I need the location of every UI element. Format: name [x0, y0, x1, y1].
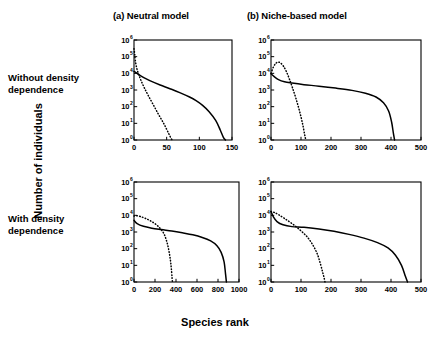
- chart-panel-a-neutral-without-dd: 100101102103104105106050100150: [108, 32, 236, 162]
- svg-text:10: 10: [121, 136, 129, 145]
- svg-text:0: 0: [269, 285, 273, 294]
- svg-text:10: 10: [258, 194, 266, 203]
- svg-text:10: 10: [258, 211, 266, 220]
- svg-text:10: 10: [121, 178, 129, 187]
- svg-text:3: 3: [267, 84, 270, 90]
- svg-text:10: 10: [258, 119, 266, 128]
- svg-text:6: 6: [130, 34, 133, 40]
- svg-text:0: 0: [130, 134, 133, 140]
- svg-text:3: 3: [130, 84, 133, 90]
- chart-panel-a-neutral-with-dd: 10010110210310410510602004006008001000: [108, 174, 243, 306]
- svg-text:10: 10: [121, 102, 129, 111]
- svg-text:2: 2: [267, 100, 270, 106]
- svg-text:10: 10: [121, 69, 129, 78]
- svg-text:6: 6: [267, 34, 270, 40]
- svg-text:5: 5: [130, 50, 133, 56]
- svg-text:10: 10: [121, 278, 129, 287]
- svg-text:150: 150: [226, 143, 239, 152]
- svg-text:10: 10: [121, 228, 129, 237]
- svg-text:10: 10: [258, 278, 266, 287]
- svg-text:3: 3: [130, 226, 133, 232]
- svg-text:500: 500: [415, 285, 428, 294]
- svg-text:300: 300: [355, 285, 368, 294]
- svg-text:1: 1: [130, 259, 133, 265]
- svg-text:10: 10: [258, 244, 266, 253]
- panel-title-a: (a) Neutral model: [113, 10, 189, 21]
- svg-text:1: 1: [130, 117, 133, 123]
- svg-text:800: 800: [212, 285, 225, 294]
- row-label-with-density-dependence: With density dependence: [8, 213, 104, 236]
- svg-text:200: 200: [149, 285, 162, 294]
- svg-text:10: 10: [258, 69, 266, 78]
- svg-text:10: 10: [121, 36, 129, 45]
- svg-text:2: 2: [130, 100, 133, 106]
- svg-text:10: 10: [258, 36, 266, 45]
- svg-text:300: 300: [355, 143, 368, 152]
- svg-text:4: 4: [267, 209, 270, 215]
- svg-text:2: 2: [267, 242, 270, 248]
- svg-text:10: 10: [258, 228, 266, 237]
- svg-text:100: 100: [295, 285, 308, 294]
- row-label-without-density-dependence: Without density dependence: [8, 72, 104, 95]
- svg-text:100: 100: [193, 143, 206, 152]
- svg-text:1: 1: [267, 259, 270, 265]
- svg-text:4: 4: [267, 67, 270, 73]
- svg-text:200: 200: [325, 143, 338, 152]
- svg-text:400: 400: [385, 285, 398, 294]
- svg-text:10: 10: [258, 136, 266, 145]
- svg-text:10: 10: [258, 52, 266, 61]
- svg-text:3: 3: [267, 226, 270, 232]
- svg-text:0: 0: [132, 143, 136, 152]
- species-rank-abundance-figure: (a) Neutral model (b) Niche-based model …: [0, 0, 430, 341]
- svg-text:5: 5: [130, 192, 133, 198]
- svg-text:0: 0: [267, 276, 270, 282]
- svg-text:1: 1: [267, 117, 270, 123]
- svg-text:100: 100: [295, 143, 308, 152]
- x-axis-title: Species rank: [0, 316, 430, 328]
- svg-text:200: 200: [325, 285, 338, 294]
- svg-text:400: 400: [385, 143, 398, 152]
- svg-text:600: 600: [191, 285, 204, 294]
- chart-panel-b-niche-without-dd: 1001011021031041051060100200300400500: [245, 32, 425, 162]
- svg-text:10: 10: [258, 261, 266, 270]
- svg-text:5: 5: [267, 50, 270, 56]
- svg-text:10: 10: [121, 261, 129, 270]
- svg-text:10: 10: [258, 178, 266, 187]
- svg-text:10: 10: [121, 86, 129, 95]
- svg-text:500: 500: [415, 143, 428, 152]
- svg-text:10: 10: [121, 194, 129, 203]
- svg-text:50: 50: [162, 143, 170, 152]
- svg-text:5: 5: [267, 192, 270, 198]
- svg-text:6: 6: [267, 176, 270, 182]
- svg-text:400: 400: [170, 285, 183, 294]
- svg-text:10: 10: [121, 211, 129, 220]
- y-axis-title: Number of individuals: [32, 76, 44, 246]
- svg-text:10: 10: [258, 86, 266, 95]
- svg-text:6: 6: [130, 176, 133, 182]
- svg-text:4: 4: [130, 209, 133, 215]
- svg-text:4: 4: [130, 67, 133, 73]
- svg-text:10: 10: [121, 119, 129, 128]
- svg-text:10: 10: [258, 102, 266, 111]
- svg-text:0: 0: [132, 285, 136, 294]
- svg-text:0: 0: [267, 134, 270, 140]
- svg-text:10: 10: [121, 244, 129, 253]
- svg-text:10: 10: [121, 52, 129, 61]
- panel-title-b: (b) Niche-based model: [247, 10, 347, 21]
- chart-panel-b-niche-with-dd: 1001011021031041051060100200300400500: [245, 174, 425, 306]
- svg-text:2: 2: [130, 242, 133, 248]
- svg-text:0: 0: [269, 143, 273, 152]
- svg-text:0: 0: [130, 276, 133, 282]
